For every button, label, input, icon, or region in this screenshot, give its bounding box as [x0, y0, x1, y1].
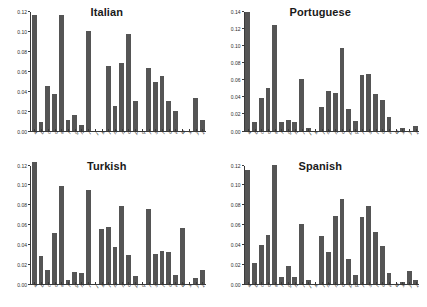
bar-slot	[392, 166, 399, 285]
bar-slot	[292, 166, 299, 285]
x-label-slot: r	[359, 132, 366, 150]
y-tick-mark	[28, 31, 30, 32]
x-label-slot: y	[406, 132, 413, 150]
x-label-slot: z	[412, 132, 419, 150]
x-label-slot: p	[132, 132, 139, 150]
figure-grid: Italian 0.000.020.040.060.080.100.12 abc…	[0, 0, 427, 307]
x-label-slot: n	[332, 285, 339, 303]
bar-slot	[159, 12, 166, 131]
bar	[272, 165, 277, 284]
bar	[59, 186, 64, 284]
bar-slot	[31, 166, 38, 285]
bar-slot	[152, 12, 159, 131]
x-label-slot: s	[365, 285, 372, 303]
bar	[106, 227, 111, 284]
bar	[266, 235, 271, 284]
bar	[119, 63, 124, 130]
x-label-slot: w	[179, 132, 186, 150]
x-label-slot: r	[145, 132, 152, 150]
bar	[346, 109, 351, 130]
bar	[333, 93, 338, 130]
bar-series-italian	[31, 12, 206, 131]
x-label-slot: x	[399, 285, 406, 303]
bar-slot	[44, 166, 51, 285]
x-label-slot: g	[285, 285, 292, 303]
bar-slot	[139, 166, 146, 285]
bar	[380, 100, 385, 130]
x-label-slot: i	[85, 285, 92, 303]
x-label-slot: a	[245, 285, 252, 303]
y-tick-mark	[242, 264, 244, 265]
bar-slot	[245, 166, 252, 285]
x-label-slot: f	[278, 285, 285, 303]
bar-slot	[91, 12, 98, 131]
bar-slot	[192, 166, 199, 285]
bar-slot	[345, 166, 352, 285]
x-label-slot: s	[365, 132, 372, 150]
bar-slot	[186, 166, 193, 285]
y-tick-mark	[28, 184, 30, 185]
x-label-slot: l	[318, 285, 325, 303]
bar	[52, 94, 57, 131]
y-tick-mark	[28, 204, 30, 205]
bar-slot	[179, 166, 186, 285]
x-label-slot: x	[186, 285, 193, 303]
panel-spanish: Spanish 0.000.020.040.060.080.100.12 abc…	[214, 154, 427, 307]
bar	[119, 206, 124, 284]
bar-slot	[172, 12, 179, 131]
bar	[326, 91, 331, 131]
x-label-slot: q	[139, 132, 146, 150]
bar-slot	[386, 166, 393, 285]
bar	[299, 79, 304, 131]
x-label-slot: m	[325, 285, 332, 303]
x-label-slot: m	[112, 132, 119, 150]
panel-portuguese: Portuguese 0.000.020.040.060.080.100.120…	[214, 0, 427, 154]
bar-slot	[412, 12, 419, 131]
bar	[366, 74, 371, 131]
y-tick-mark	[28, 284, 30, 285]
bar	[252, 263, 257, 284]
x-label-slot: e	[271, 132, 278, 150]
x-label-slot: f	[278, 132, 285, 150]
y-tick-mark	[242, 165, 244, 166]
y-tick-mark	[242, 62, 244, 63]
bar-slot	[258, 166, 265, 285]
bar-slot	[245, 12, 252, 131]
x-label-slot: s	[152, 132, 159, 150]
x-label-slot: z	[199, 285, 206, 303]
bar-slot	[51, 166, 58, 285]
x-label-slot: t	[372, 285, 379, 303]
x-tick-labels-italian: abcdefghijklmnopqrstuvwxyz	[31, 132, 206, 150]
bar	[166, 252, 171, 284]
x-label-slot: c	[258, 132, 265, 150]
x-label-slot: k	[98, 132, 105, 150]
bar-slot	[251, 12, 258, 131]
bar-slot	[139, 12, 146, 131]
x-label-slot: k	[98, 285, 105, 303]
x-label-slot: e	[271, 285, 278, 303]
x-label-slot: x	[399, 132, 406, 150]
x-label-slot: o	[125, 285, 132, 303]
y-tick-mark	[242, 28, 244, 29]
panel-italian: Italian 0.000.020.040.060.080.100.12 abc…	[0, 0, 214, 154]
bar-slot	[51, 12, 58, 131]
plot-area-italian: 0.000.020.040.060.080.100.12	[30, 12, 206, 132]
bar-slot	[372, 166, 379, 285]
bar-slot	[312, 12, 319, 131]
x-label-slot: w	[392, 285, 399, 303]
bar	[113, 106, 118, 131]
bar	[245, 170, 250, 284]
x-label-slot: p	[132, 285, 139, 303]
bar-slot	[38, 166, 45, 285]
y-tick-mark	[242, 184, 244, 185]
x-label-slot: c	[258, 285, 265, 303]
x-label-slot: u	[165, 132, 172, 150]
x-label-slot: b	[38, 132, 45, 150]
bar	[32, 162, 37, 284]
bar-slot	[172, 166, 179, 285]
bar	[366, 206, 371, 284]
bar-slot	[285, 166, 292, 285]
bar-slot	[165, 166, 172, 285]
x-label-slot: n	[118, 285, 125, 303]
x-label-slot: s	[152, 285, 159, 303]
